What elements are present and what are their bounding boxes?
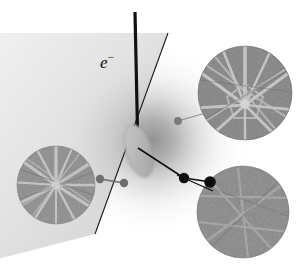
- electron-beam-label: e−: [100, 54, 114, 71]
- detector-node-marker-a: [179, 173, 189, 183]
- electron-beam-label-text: e: [100, 53, 108, 72]
- figure-canvas: [0, 0, 300, 267]
- sample-point-marker-left: [96, 175, 104, 183]
- detector-node-marker-b: [204, 176, 216, 188]
- pattern-anchor-marker-top-right: [174, 117, 182, 125]
- pattern-anchor-marker-left: [120, 179, 128, 187]
- electron-beam-label-superscript: −: [108, 51, 114, 63]
- ebsd-figure: e−: [0, 0, 300, 267]
